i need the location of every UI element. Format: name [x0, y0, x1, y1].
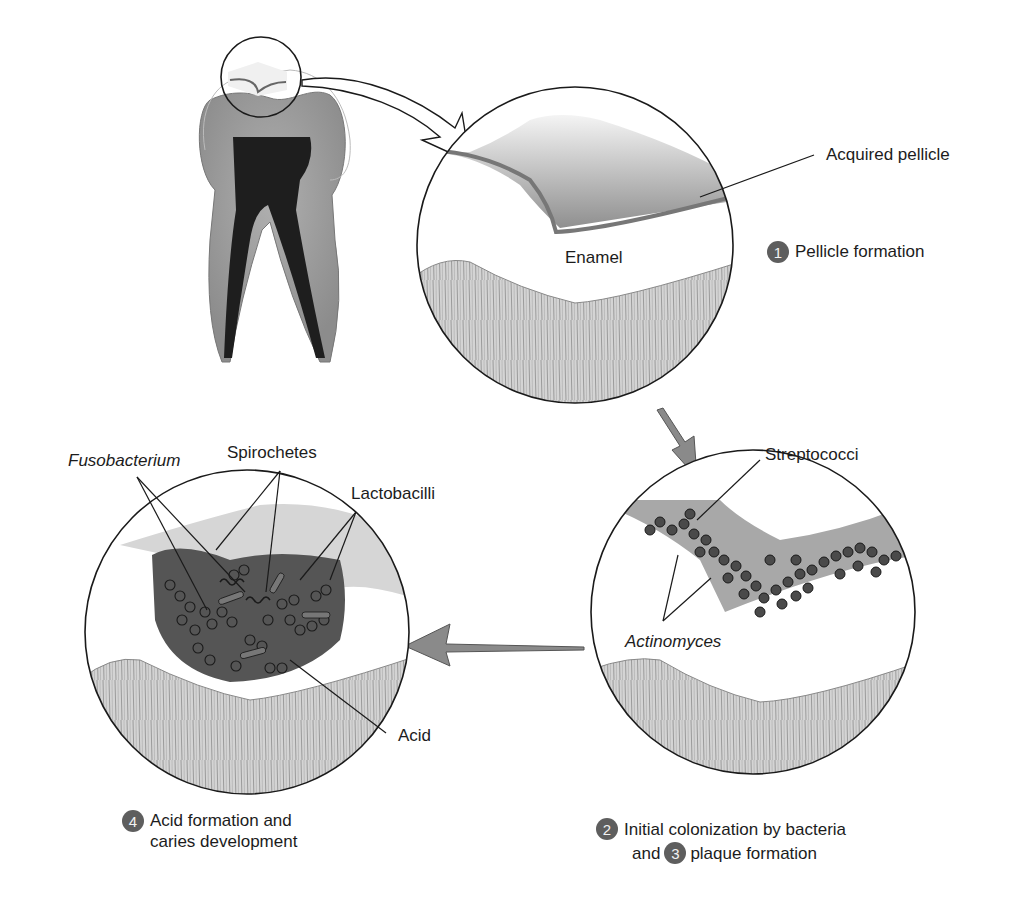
- step-3-badge: 3: [664, 842, 686, 864]
- step-4-text-line2: caries development: [150, 831, 297, 852]
- arrow-left: [405, 624, 584, 666]
- label-acquired-pellicle: Acquired pellicle: [826, 145, 950, 165]
- step-2-badge: 2: [596, 818, 618, 840]
- step-4-badge: 4: [122, 810, 144, 832]
- step-1-badge: 1: [767, 241, 789, 263]
- stage4-circle: [80, 465, 420, 805]
- label-streptococci: Streptococci: [765, 445, 859, 465]
- step-4: 4 Acid formation and caries development: [122, 810, 297, 852]
- step-4-text-line1: Acid formation and: [150, 810, 297, 831]
- label-spirochetes: Spirochetes: [227, 443, 317, 463]
- label-lactobacilli: Lactobacilli: [351, 484, 435, 504]
- step-1: 1 Pellicle formation: [767, 241, 924, 263]
- label-acid: Acid: [398, 726, 431, 746]
- step-2-text: Initial colonization by bacteria: [624, 819, 846, 840]
- step-3-text: plaque formation: [690, 843, 817, 864]
- label-enamel: Enamel: [565, 248, 623, 268]
- step-2-3-and: and: [632, 843, 660, 864]
- stage2-circle: [590, 450, 920, 790]
- step-1-text: Pellicle formation: [795, 241, 924, 262]
- step-2-3: 2 Initial colonization by bacteria and 3…: [596, 818, 846, 864]
- label-fusobacterium: Fusobacterium: [68, 451, 180, 471]
- label-actinomyces: Actinomyces: [625, 632, 721, 652]
